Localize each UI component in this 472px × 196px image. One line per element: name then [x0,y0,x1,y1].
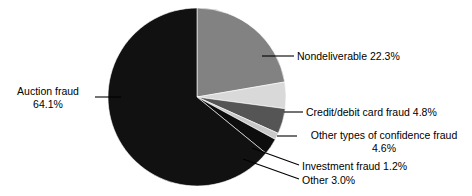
pie-label-credit-debit-card-fraud: Credit/debit card fraud 4.8% [306,106,437,119]
pie-label-other: Other 3.0% [302,174,355,187]
pie-slices [108,8,286,186]
pie-label-other-text: Other 3.0% [302,174,355,186]
pie-label-auction-fraud: Auction fraud 64.1% [2,85,94,110]
pie-label-other-confidence-fraud: Other types of confidence fraud 4.6% [300,129,468,154]
pie-slice-nondeliverable [197,8,285,97]
pie-label-nondeliverable: Nondeliverable 22.3% [297,50,400,63]
pie-chart-figure: Auction fraud 64.1% Nondeliverable 22.3%… [0,0,472,196]
pie-label-auction-fraud-name: Auction fraud [17,85,79,97]
pie-label-other-confidence-fraud-name: Other types of confidence fraud [311,129,458,141]
pie-label-auction-fraud-value: 64.1% [33,98,63,110]
pie-label-credit-debit-card-fraud-text: Credit/debit card fraud 4.8% [306,106,437,118]
pie-label-investment-fraud: Investment fraud 1.2% [302,160,407,173]
pie-label-investment-fraud-text: Investment fraud 1.2% [302,160,407,172]
pie-label-other-confidence-fraud-value: 4.6% [372,142,396,154]
pie-label-nondeliverable-text: Nondeliverable 22.3% [297,50,400,62]
